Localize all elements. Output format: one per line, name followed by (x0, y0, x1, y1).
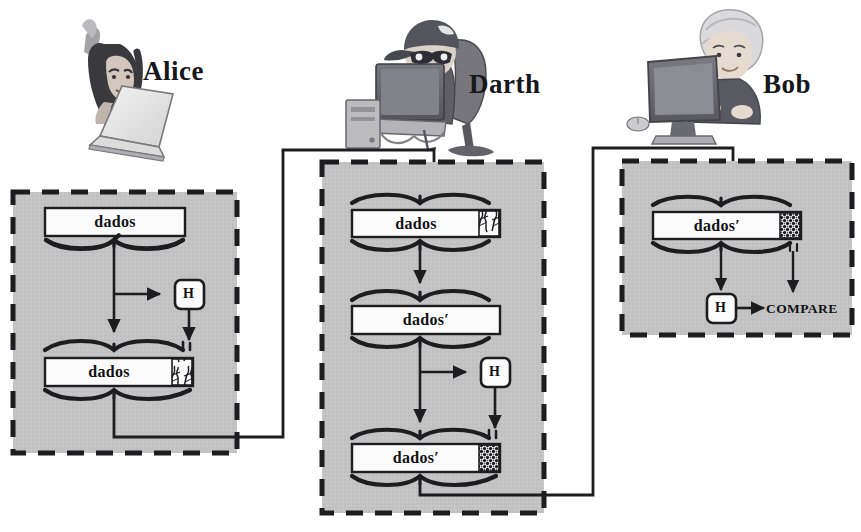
bob-compare-label: COMPARE (766, 301, 838, 317)
darth-data-3-label: dados′ (352, 449, 480, 467)
darth-data-1-label: dados (352, 215, 480, 233)
darth-data-2-label: dados′ (352, 311, 500, 329)
alice-data-2-label: dados (45, 363, 173, 381)
bob-data-1-label: dados′ (653, 217, 781, 235)
darth-hash-label: H (489, 364, 500, 380)
bob-hash-label: H (715, 300, 726, 316)
diagram-canvas: Alice Darth Bob (0, 0, 861, 532)
alice-hash-label: H (183, 286, 194, 302)
alice-data-1-label: dados (45, 213, 185, 231)
